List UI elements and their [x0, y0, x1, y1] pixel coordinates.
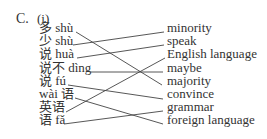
match-line: [64, 111, 163, 124]
match-line: [75, 98, 163, 124]
match-line: [76, 32, 162, 85]
matching-lines: [0, 0, 267, 139]
match-line: [68, 85, 163, 99]
match-line: [66, 58, 165, 112]
match-line: [77, 45, 164, 58]
